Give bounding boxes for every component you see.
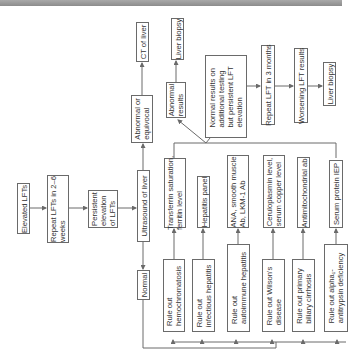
node-label: Serum protein IEP	[332, 163, 341, 225]
node-label: Normal results on additional testing but…	[208, 66, 244, 127]
node-ruleout-infectious: Rule out infectious hepatitis	[192, 259, 215, 332]
node-label: Rule out Wilson's disease	[265, 266, 283, 324]
node-test-iep: Serum protein IEP	[329, 160, 343, 228]
node-elevated-lfts: Elevated LFTs	[17, 183, 30, 234]
node-label: Liver biopsy	[173, 19, 182, 60]
node-normal-results-persistent: Normal results on additional testing but…	[205, 55, 247, 138]
node-abnormal-results: Abnormal results	[166, 82, 186, 118]
node-ultrasound: Ultrasound of liver	[137, 170, 150, 242]
node-ruleout-pbc: Rule out primary biliary cirrhosis	[292, 259, 315, 332]
node-label: ANA, smooth muscle Ab, LKM-1 Ab	[229, 156, 247, 227]
node-label: Abnormal or equivocal	[133, 98, 151, 139]
node-liver-biopsy-2: Liver biopsy	[323, 62, 336, 106]
node-label: Transferrin saturation, ferritin level	[166, 156, 184, 230]
node-test-hepatitis: Hepatitis panel	[197, 176, 210, 228]
node-ruleout-wilson: Rule out Wilson's disease	[262, 259, 285, 332]
node-label: Rule out hemochromatosis	[165, 266, 183, 326]
node-label: Persistent elevation of LFTs	[90, 192, 117, 226]
node-worsening-lft: Worsening LFT results	[294, 48, 308, 123]
node-label: Antimitochondrial ab	[299, 158, 308, 227]
node-label: Rule out infectious hepatitis	[195, 264, 213, 326]
node-abnormal-equivocal: Abnormal or equivocal	[131, 95, 153, 143]
node-ruleout-a1at: Rule out alpha₁- antitrypsin deficiency	[324, 244, 348, 332]
node-normal: Normal	[137, 270, 150, 300]
node-label: Abnormal results	[167, 84, 185, 117]
node-label: Repeat LFT in 3 months	[264, 44, 273, 125]
node-repeat-lfts-2-6-weeks: Repeat LFTs in 2–6 weeks	[47, 175, 69, 243]
node-ruleout-autoimmune: Rule out autoimmune hepatitis	[227, 244, 250, 332]
node-test-autoimmune: ANA, smooth muscle Ab, LKM-1 Ab	[227, 155, 249, 228]
node-label: Rule out primary biliary cirrhosis	[295, 268, 313, 324]
node-label: Hepatitis panel	[199, 177, 208, 227]
node-label: Liver biopsy	[325, 64, 334, 105]
node-label: Ultrasound of liver	[139, 175, 148, 236]
node-persistent-elevation: Persistent elevation of LFTs	[88, 190, 118, 228]
node-label: Rule out autoimmune hepatitis	[230, 252, 248, 324]
node-test-copper: Ceruloplasmin level, serum copper level	[263, 155, 285, 228]
node-ruleout-hemochromatosis: Rule out hemochromatosis	[163, 259, 185, 332]
node-label: CT of liver	[138, 25, 147, 59]
node-label: Worsening LFT results	[297, 47, 306, 123]
node-label: Ceruloplasmin level, serum copper level	[265, 157, 283, 225]
node-liver-biopsy-1: Liver biopsy	[171, 18, 184, 60]
node-label: Repeat LFTs in 2–6 weeks	[49, 176, 67, 242]
node-label: Rule out alpha₁- antitrypsin deficiency	[327, 253, 345, 324]
node-ct-liver: CT of liver	[136, 22, 149, 62]
node-test-iron: Transferrin saturation, ferritin level	[164, 158, 186, 228]
node-repeat-lft-3-months: Repeat LFT in 3 months	[261, 45, 275, 125]
node-test-ama: Antimitochondrial ab	[297, 157, 310, 228]
node-label: Elevated LFTs	[19, 184, 28, 232]
node-label: Normal	[139, 273, 148, 297]
